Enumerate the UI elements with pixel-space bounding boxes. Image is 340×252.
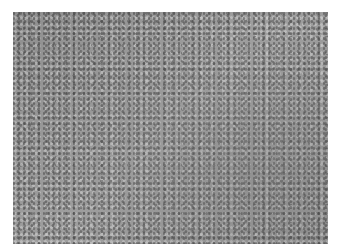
micrograph-image	[13, 12, 328, 244]
